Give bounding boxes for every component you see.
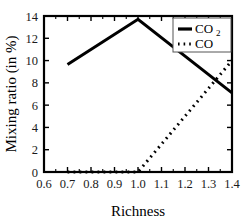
y-axis-title: Mixing ratio (in %): [3, 35, 20, 152]
x-tick-label: 0.8: [83, 177, 99, 191]
y-tick-label: 0: [32, 166, 38, 180]
x-tick-label: 1.4: [224, 177, 240, 191]
x-tick-label: 1.1: [154, 177, 170, 191]
y-tick-label: 8: [32, 76, 38, 90]
y-axis-tick-labels: 02468101214: [26, 10, 39, 180]
y-tick-label: 6: [32, 99, 38, 113]
y-tick-label: 4: [32, 121, 39, 135]
x-tick-label: 1.0: [130, 177, 146, 191]
y-tick-label: 14: [26, 10, 39, 24]
legend-label-co: CO: [195, 36, 213, 51]
x-tick-label: 0.9: [107, 177, 123, 191]
y-tick-label: 2: [32, 143, 38, 157]
legend-label-co2-subscript: 2: [216, 28, 221, 38]
x-tick-label: 0.7: [60, 177, 76, 191]
y-tick-label: 12: [26, 32, 39, 46]
legend-label-co2: CO: [195, 21, 213, 36]
y-tick-label: 10: [26, 54, 39, 68]
x-tick-label: 1.2: [177, 177, 193, 191]
x-tick-label: 0.6: [36, 177, 52, 191]
x-axis-title: Richness: [111, 203, 165, 219]
chart-legend: CO 2 CO: [173, 18, 231, 52]
x-axis-tick-labels: 0.60.70.80.91.01.11.21.31.4: [36, 177, 240, 191]
mixing-ratio-line-chart: 0.60.70.80.91.01.11.21.31.4 02468101214 …: [0, 0, 246, 222]
chart-figure: 0.60.70.80.91.01.11.21.31.4 02468101214 …: [0, 0, 246, 222]
x-tick-label: 1.3: [201, 177, 217, 191]
